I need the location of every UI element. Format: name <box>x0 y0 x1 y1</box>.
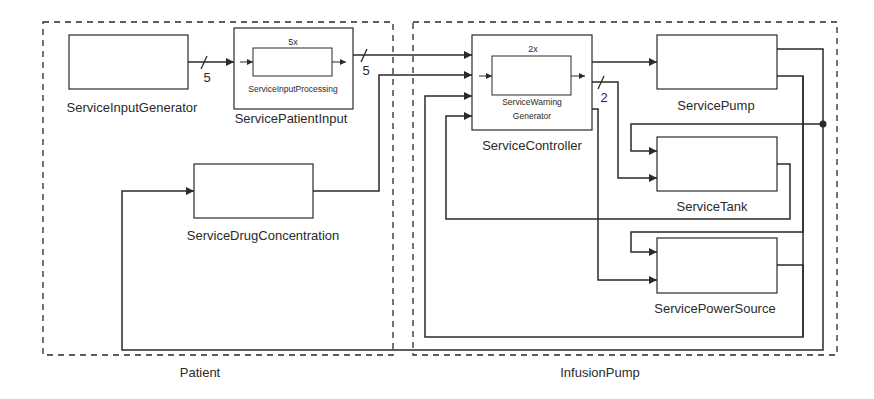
block-service-drug-concentration[interactable]: ServiceDrugConcentration <box>187 164 339 243</box>
block-diagram: Patient InfusionPump ServiceInputGenerat… <box>0 0 874 399</box>
block-service-patient-input[interactable]: 5x ServiceInputProcessing ServicePatient… <box>234 28 353 126</box>
service-input-processing-block[interactable] <box>253 48 332 76</box>
service-warning-label-line2: Generator <box>513 111 551 121</box>
service-drug-concentration-label: ServiceDrugConcentration <box>187 228 339 243</box>
patient-input-multiplicity: 5x <box>288 37 298 47</box>
service-warning-label-line1: ServiceWarning <box>502 97 562 107</box>
service-warning-generator-block[interactable] <box>492 56 571 95</box>
block-service-power-source[interactable]: ServicePowerSource <box>654 238 777 316</box>
service-power-source-label: ServicePowerSource <box>654 301 775 316</box>
controller-multiplicity: 2x <box>528 44 538 54</box>
service-input-processing-label: ServiceInputProcessing <box>248 84 338 94</box>
service-input-generator-label: ServiceInputGenerator <box>67 100 198 115</box>
wire-pump-output-main <box>777 49 823 124</box>
block-service-controller[interactable]: 2x ServiceWarning Generator ServiceContr… <box>472 35 592 153</box>
block-service-tank[interactable]: ServiceTank <box>657 137 777 214</box>
bus-width-label-3: 2 <box>600 90 607 105</box>
junction-dot <box>820 121 827 128</box>
service-patient-input-label: ServicePatientInput <box>235 111 348 126</box>
infusion-pump-group-label: InfusionPump <box>560 365 640 380</box>
block-service-pump[interactable]: ServicePump <box>657 35 777 113</box>
wire-controller-to-power-source <box>592 109 657 280</box>
block-service-input-generator[interactable]: ServiceInputGenerator <box>67 35 198 115</box>
wire-power-source-return <box>777 265 803 337</box>
service-pump-label: ServicePump <box>677 98 754 113</box>
patient-group-label: Patient <box>180 365 221 380</box>
service-tank-label: ServiceTank <box>677 199 748 214</box>
bus-width-label-2: 5 <box>362 63 369 78</box>
service-controller-label: ServiceController <box>482 138 582 153</box>
bus-width-label-1: 5 <box>203 70 210 85</box>
